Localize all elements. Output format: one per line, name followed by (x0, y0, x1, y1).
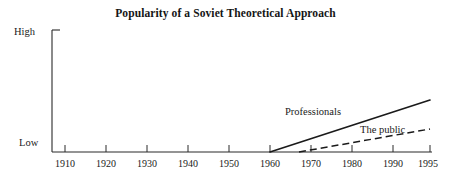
plot-area (0, 0, 451, 180)
series-line-the-public (299, 129, 430, 152)
series-line-professionals (270, 100, 430, 152)
chart-container: Popularity of a Soviet Theoretical Appro… (0, 0, 451, 180)
